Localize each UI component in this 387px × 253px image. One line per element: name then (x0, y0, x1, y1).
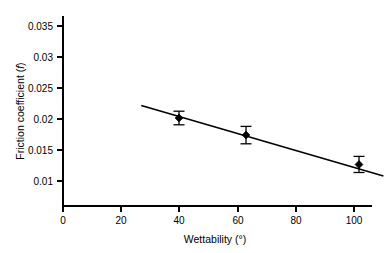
x-axis-ticks (63, 206, 354, 212)
y-tick-label: 0.015 (28, 145, 53, 156)
y-axis-title-text: Friction coefficient ( (14, 68, 26, 159)
svg-text:Friction coefficient (f): Friction coefficient (f) (14, 62, 26, 159)
chart-figure: 0.035 0.03 0.025 0.02 0.015 0.01 0 20 40… (0, 0, 387, 253)
y-axis-title-paren: ) (14, 62, 26, 66)
data-marker-diamond (355, 161, 363, 169)
x-tick-label: 80 (290, 215, 302, 226)
x-tick-label: 0 (60, 215, 66, 226)
data-marker-diamond (242, 131, 250, 139)
y-axis-ticks (57, 26, 63, 181)
x-tick-label: 100 (346, 215, 363, 226)
y-axis-title: Friction coefficient (f) (14, 62, 26, 159)
data-point-group (174, 111, 185, 125)
x-tick-label: 20 (115, 215, 127, 226)
x-tick-label: 40 (173, 215, 185, 226)
y-tick-label: 0.035 (28, 21, 53, 32)
x-axis-title: Wettability (°) (184, 233, 246, 245)
friction-vs-wettability-scatter-plot: 0.035 0.03 0.025 0.02 0.015 0.01 0 20 40… (0, 0, 387, 253)
x-axis-tick-labels: 0 20 40 60 80 100 (60, 215, 363, 226)
y-tick-label: 0.01 (34, 176, 54, 187)
y-axis-tick-labels: 0.035 0.03 0.025 0.02 0.015 0.01 (28, 21, 53, 187)
data-point-group (241, 126, 252, 143)
x-tick-label: 60 (232, 215, 244, 226)
y-tick-label: 0.03 (34, 52, 54, 63)
y-tick-label: 0.02 (34, 114, 54, 125)
y-tick-label: 0.025 (28, 83, 53, 94)
